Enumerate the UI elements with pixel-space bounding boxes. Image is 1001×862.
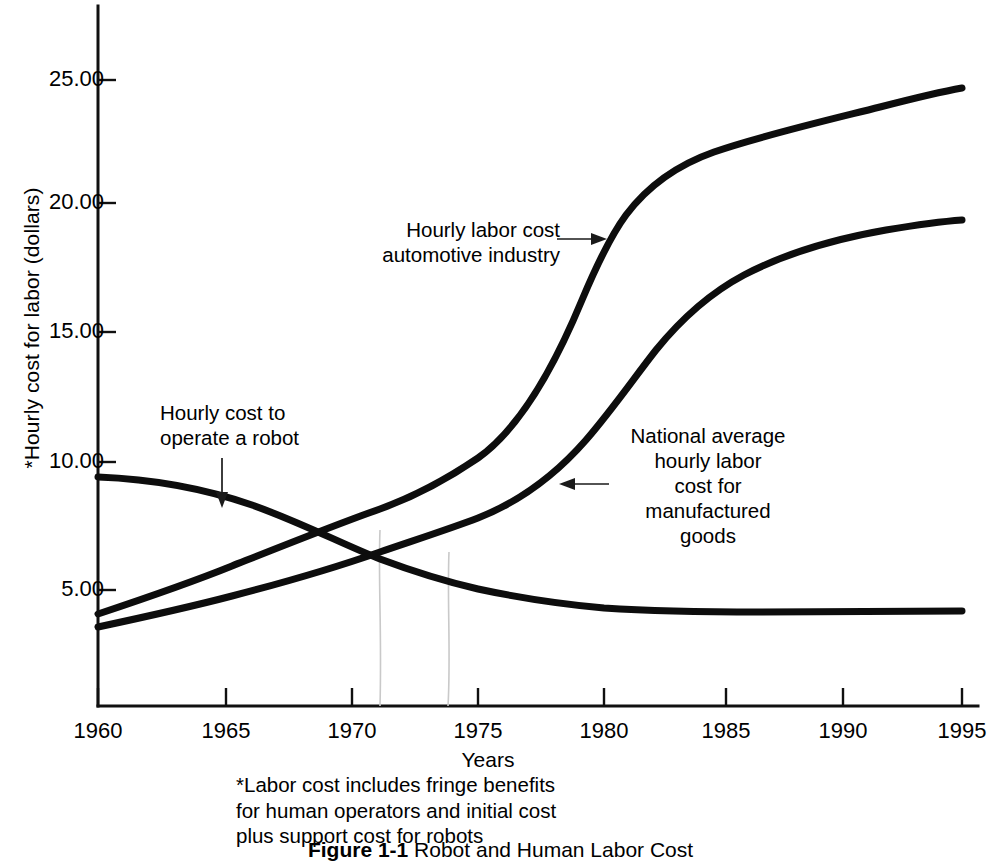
x-tick-label-1970: 1970	[307, 718, 397, 744]
reference-line-1974	[448, 552, 449, 706]
annotation-national-average-labor-cost: National average hourly labor cost for m…	[608, 423, 808, 548]
x-tick-label-1965: 1965	[181, 718, 271, 744]
annotation-robot-operating-cost: Hourly cost to operate a robot	[160, 400, 390, 450]
y-tick-label-5: 5.00	[0, 576, 104, 602]
automotive-annotation-arrow	[557, 233, 607, 245]
x-tick-label-1960: 1960	[53, 718, 143, 744]
figure-caption-text: Robot and Human Labor Cost	[414, 838, 693, 861]
national-average-annotation-arrow	[559, 478, 609, 490]
y-tick-label-20: 20.00	[0, 189, 104, 215]
y-tick-label-15: 15.00	[0, 318, 104, 344]
figure-caption: Figure 1-1 Robot and Human Labor Cost	[0, 838, 1001, 862]
x-axis-title: Years	[398, 748, 578, 772]
annotation-automotive-labor-cost: Hourly labor cost automotive industry	[330, 217, 560, 267]
x-axis-ticks	[98, 688, 962, 706]
series-line-robot-operating-cost	[98, 477, 962, 612]
y-tick-label-25: 25.00	[0, 66, 104, 92]
x-tick-label-1995: 1995	[917, 718, 1001, 744]
x-tick-label-1985: 1985	[681, 718, 771, 744]
series-line-automotive-labor-cost	[98, 88, 962, 614]
figure-number: Figure 1-1	[308, 838, 408, 861]
y-tick-label-10: 10.00	[0, 448, 104, 474]
x-tick-label-1990: 1990	[798, 718, 888, 744]
x-tick-label-1975: 1975	[433, 718, 523, 744]
x-tick-label-1980: 1980	[559, 718, 649, 744]
